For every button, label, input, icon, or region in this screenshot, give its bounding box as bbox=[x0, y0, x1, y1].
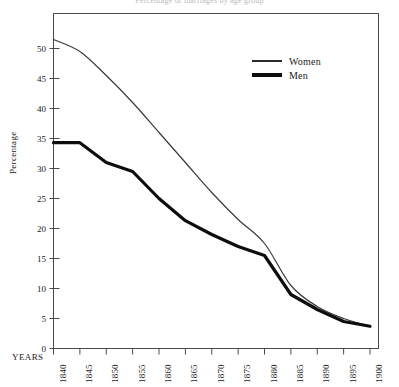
legend-line-swatch-men bbox=[252, 70, 282, 80]
x-tick-label: 1870 bbox=[216, 364, 226, 383]
x-tick-label: 1895 bbox=[348, 364, 358, 383]
legend-item-men: Men bbox=[252, 68, 362, 82]
y-tick-label: 40 bbox=[22, 104, 46, 114]
y-tick-label: 10 bbox=[22, 284, 46, 294]
legend-item-women: Women bbox=[252, 54, 362, 68]
y-axis-title: Percentage bbox=[8, 84, 18, 174]
y-tick-label: 25 bbox=[22, 194, 46, 204]
x-tick-label: 1875 bbox=[242, 364, 252, 383]
x-tick-label: 1880 bbox=[269, 364, 279, 383]
series-line-men bbox=[54, 143, 371, 327]
line-chart: Percentage of marriages by age group Per… bbox=[0, 0, 399, 387]
x-tick-label: 1845 bbox=[84, 364, 94, 383]
x-tick-label: 1885 bbox=[295, 364, 305, 383]
y-tick-label: 50 bbox=[22, 44, 46, 54]
y-tick-label: 20 bbox=[22, 224, 46, 234]
x-tick-label: 1900 bbox=[374, 364, 384, 383]
y-tick-label: 45 bbox=[22, 74, 46, 84]
legend-label-men: Men bbox=[289, 70, 308, 81]
x-tick-label: 1850 bbox=[110, 364, 120, 383]
x-tick-label: 1840 bbox=[58, 364, 68, 383]
series-line-women bbox=[54, 40, 371, 327]
x-tick-label: 1855 bbox=[137, 364, 147, 383]
x-tick-label: 1865 bbox=[189, 364, 199, 383]
y-tick-label: 30 bbox=[22, 164, 46, 174]
legend-label-women: Women bbox=[289, 56, 321, 67]
x-tick-label: 1860 bbox=[163, 364, 173, 383]
x-tick-label: 1890 bbox=[321, 364, 331, 383]
y-tick-label: 35 bbox=[22, 134, 46, 144]
y-tick-label: 15 bbox=[22, 254, 46, 264]
chart-legend: Women Men bbox=[252, 54, 362, 82]
x-axis-title: YEARS bbox=[12, 352, 44, 362]
legend-line-swatch-women bbox=[252, 56, 282, 66]
y-tick-label: 5 bbox=[22, 314, 46, 324]
